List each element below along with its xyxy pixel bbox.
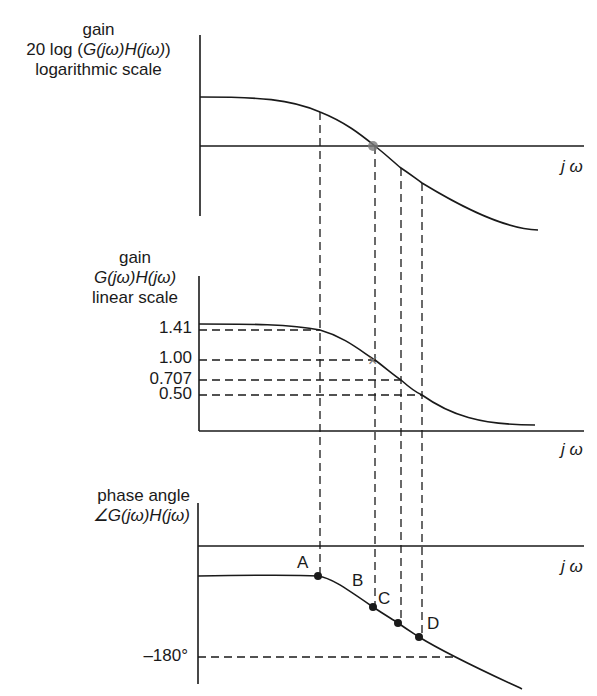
crossover-marker-log [368,141,378,151]
point-A-dot [314,572,322,580]
crossover-marker-linear: × [368,352,377,369]
point-between-dot [394,619,402,627]
log-gain-curve [200,97,538,230]
log-gain-label-line3: logarithmic scale [0,60,197,80]
bode-plot-drawing: × [0,0,597,696]
point-C-dot [369,603,377,611]
log-gain-label-line2: 20 log (G(jω)H(jω)) [0,40,197,60]
tick-0.50: 0.50 [132,384,192,404]
log-gain-label-line1: gain [0,20,197,40]
phase-curve [198,575,522,689]
linear-gain-label-line3: linear scale [80,288,190,308]
log-prefix: 20 log ( [26,40,83,59]
point-D-dot [415,633,423,641]
phase-label: phase angle ∠G(jω)H(jω) [40,486,190,526]
tick-1.41: 1.41 [132,318,192,338]
point-B-label: B [352,571,363,591]
linear-gain-curve [199,324,535,425]
phase-x-axis-label: j ω [561,557,583,577]
phase-label-line1: phase angle [40,486,190,506]
transfer-function-expr: G(jω)H(jω) [83,40,165,59]
point-D-label: D [427,614,439,634]
linear-gain-x-axis-label: j ω [561,440,583,460]
phase-label-line2: ∠G(jω)H(jω) [40,506,190,526]
tick-1.00: 1.00 [132,348,192,368]
log-gain-label: gain 20 log (G(jω)H(jω)) logarithmic sca… [0,20,197,80]
linear-gain-label-line1: gain [80,248,190,268]
log-suffix: ) [165,40,171,59]
tick-minus-180: –180° [128,646,188,666]
point-C-label: C [378,589,390,609]
linear-gain-label: gain G(jω)H(jω) linear scale [80,248,190,308]
linear-gain-label-line2: G(jω)H(jω) [80,268,190,288]
point-A-label: A [297,553,308,573]
log-gain-x-axis-label: j ω [561,157,583,177]
